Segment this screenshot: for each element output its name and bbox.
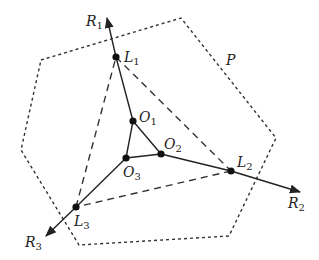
label-r3: R3 xyxy=(25,235,42,252)
label-l3-sub: 3 xyxy=(83,220,89,231)
label-r1: R1 xyxy=(86,14,103,31)
polygon-p xyxy=(21,18,276,245)
point-l2 xyxy=(227,167,234,174)
point-l3 xyxy=(72,203,79,210)
diagram-svg xyxy=(0,0,319,260)
label-p: P xyxy=(226,53,235,67)
label-r1-base: R xyxy=(86,13,97,29)
label-l3: L3 xyxy=(74,214,90,231)
label-o2-base: O xyxy=(164,136,175,152)
label-l1-sub: 1 xyxy=(133,56,139,67)
label-o1: O1 xyxy=(139,110,157,127)
ray-r1 xyxy=(107,18,116,57)
edge-l3-l1 xyxy=(76,57,116,207)
label-l1-base: L xyxy=(124,49,133,65)
label-r3-base: R xyxy=(25,234,36,250)
edge-o3-l3 xyxy=(76,158,126,207)
diagram-canvas: R1 L1 P O1 O2 O3 L2 R2 L3 R3 xyxy=(0,0,319,260)
point-l1 xyxy=(112,53,119,60)
rays xyxy=(46,18,300,236)
label-l2-sub: 2 xyxy=(246,161,252,172)
label-o1-base: O xyxy=(139,109,150,125)
label-o1-sub: 1 xyxy=(150,116,156,127)
point-o3 xyxy=(122,154,129,161)
label-o2-sub: 2 xyxy=(175,143,181,154)
label-l2: L2 xyxy=(237,155,253,172)
label-o3-sub: 3 xyxy=(134,171,140,182)
edge-o3-o1 xyxy=(126,121,133,158)
label-o3: O3 xyxy=(123,165,141,182)
label-o3-base: O xyxy=(123,164,134,180)
solid-edges xyxy=(76,57,231,207)
ray-r3 xyxy=(46,207,76,236)
edge-o2-o3 xyxy=(126,154,161,158)
label-l1: L1 xyxy=(124,50,140,67)
label-l2-base: L xyxy=(237,154,246,170)
label-r3-sub: 3 xyxy=(36,241,42,252)
label-r2-sub: 2 xyxy=(299,202,305,213)
label-r1-sub: 1 xyxy=(97,20,103,31)
edge-l2-l3 xyxy=(76,171,231,207)
label-p-base: P xyxy=(226,52,235,68)
edge-o2-l2 xyxy=(161,154,231,171)
label-r2-base: R xyxy=(288,195,299,211)
label-o2: O2 xyxy=(164,137,182,154)
label-l3-base: L xyxy=(74,213,83,229)
point-o1 xyxy=(129,117,136,124)
ray-r2 xyxy=(231,171,300,192)
label-r2: R2 xyxy=(288,196,305,213)
